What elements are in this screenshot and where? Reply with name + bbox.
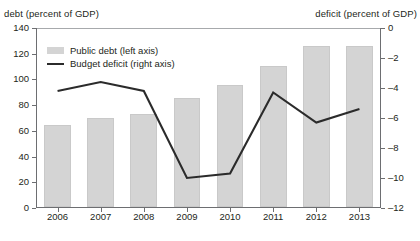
legend-label: Public debt (left axis): [70, 45, 158, 57]
left-tick-mark: [32, 208, 36, 209]
left-tick-label: 120: [13, 49, 29, 59]
x-tick-label-2010: 2010: [219, 211, 240, 222]
x-tick-label-2007: 2007: [90, 211, 111, 222]
left-tick-label: 0: [24, 203, 29, 213]
right-tick-label: –12: [388, 203, 404, 213]
x-tick-label-2011: 2011: [263, 211, 283, 222]
left-tick-label: 80: [18, 100, 29, 110]
right-tick-label: –2: [388, 53, 399, 63]
right-tick-mark: [381, 88, 385, 89]
chart-container: debt (percent of GDP) deficit (percent o…: [0, 0, 420, 241]
right-tick-label: –6: [388, 113, 399, 123]
x-tick-label-2013: 2013: [349, 211, 370, 222]
left-axis-caption: debt (percent of GDP): [4, 8, 99, 19]
right-tick-mark: [381, 178, 385, 179]
chart-legend: Public debt (left axis)Budget deficit (r…: [47, 44, 175, 70]
legend-line-swatch-icon: [47, 63, 64, 65]
legend-item-1: Public debt (left axis): [47, 44, 175, 57]
left-tick-label: 40: [18, 152, 29, 162]
legend-label: Budget deficit (right axis): [70, 58, 175, 70]
left-tick-label: 60: [18, 126, 29, 136]
right-tick-label: –8: [388, 143, 399, 153]
right-tick-mark: [381, 28, 385, 29]
legend-bar-swatch-icon: [47, 47, 64, 54]
left-tick-label: 140: [13, 23, 29, 33]
right-tick-mark: [381, 148, 385, 149]
right-axis-caption: deficit (percent of GDP): [315, 8, 417, 19]
right-tick-mark: [381, 118, 385, 119]
deficit-polyline: [58, 82, 360, 178]
right-tick-label: –10: [388, 173, 404, 183]
right-tick-mark: [381, 208, 385, 209]
x-tick-label-2008: 2008: [133, 211, 154, 222]
x-tick-label-2006: 2006: [47, 211, 68, 222]
right-tick-label: –4: [388, 83, 399, 93]
right-tick-mark: [381, 58, 385, 59]
legend-item-2: Budget deficit (right axis): [47, 57, 175, 70]
left-tick-label: 20: [18, 177, 29, 187]
x-tick-label-2012: 2012: [306, 211, 327, 222]
left-tick-label: 100: [13, 74, 29, 84]
x-tick-label-2009: 2009: [176, 211, 197, 222]
right-tick-label: 0: [388, 23, 393, 33]
